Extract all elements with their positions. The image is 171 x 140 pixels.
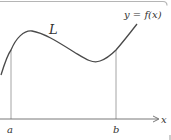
b-label: b [113, 124, 119, 135]
frame-border [0, 2, 167, 6]
function-label: y = f(x) [123, 9, 162, 20]
function-curve [1, 24, 137, 75]
a-label: a [7, 124, 13, 135]
curve-label: L [48, 22, 58, 37]
arc-length-diagram: L y = f(x) x a b [0, 0, 171, 140]
x-axis-label: x [161, 114, 167, 125]
